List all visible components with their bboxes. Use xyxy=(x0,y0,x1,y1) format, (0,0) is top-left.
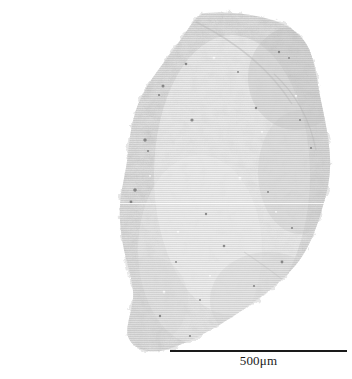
specimen-region xyxy=(0,0,352,379)
scale-bar: 500μm xyxy=(170,350,347,369)
micrograph-canvas: 500μm xyxy=(0,0,352,379)
specimen-image xyxy=(0,0,352,379)
scale-bar-line xyxy=(170,350,347,352)
scale-bar-label: 500μm xyxy=(170,353,347,369)
